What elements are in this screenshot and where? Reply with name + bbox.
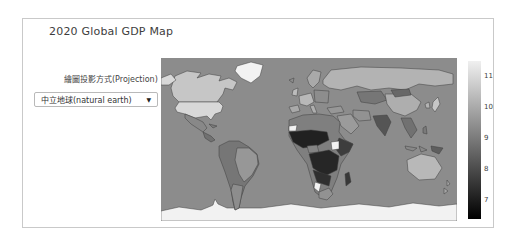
colorbar-tick-label: 8	[484, 166, 488, 173]
region-east-europe[interactable]	[314, 90, 329, 103]
colorbar-tick-label: 10	[484, 104, 493, 111]
chevron-down-icon: ▼	[146, 96, 151, 103]
chart-title: 2020 Global GDP Map	[49, 25, 173, 38]
projection-label: 繪圖投影方式(Projection)	[64, 73, 158, 84]
projection-select-value: 中立地球(natural earth)	[41, 94, 132, 105]
region-south-sudan[interactable]	[331, 141, 339, 150]
colorbar-tick-label: 7	[484, 197, 488, 204]
colorbar	[468, 61, 481, 219]
projection-select[interactable]: 中立地球(natural earth) ▼	[34, 92, 158, 107]
region-nigeria[interactable]	[307, 145, 319, 153]
region-western-sahara[interactable]	[289, 125, 297, 131]
colorbar-tick-label: 11	[484, 73, 493, 80]
figure-panel: 2020 Global GDP Map 繪圖投影方式(Projection) 中…	[22, 18, 494, 228]
colorbar-tick-label: 9	[484, 135, 488, 142]
colorbar-ticks: 7891011	[484, 61, 500, 219]
choropleth-world-map[interactable]	[161, 58, 457, 221]
